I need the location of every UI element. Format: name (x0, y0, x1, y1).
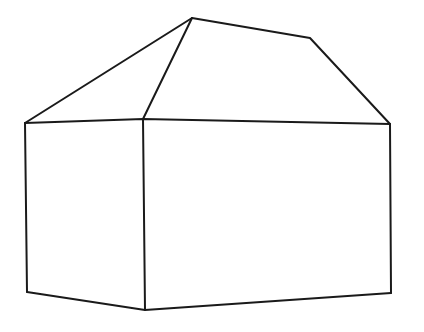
background-rect (0, 0, 424, 332)
wall-right-edge-line (390, 124, 391, 293)
house-line-drawing (0, 0, 424, 332)
drawing-canvas (0, 0, 424, 332)
